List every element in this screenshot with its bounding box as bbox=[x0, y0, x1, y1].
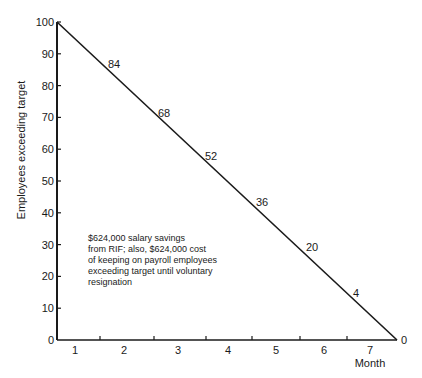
svg-text:70: 70 bbox=[42, 111, 54, 123]
svg-text:4: 4 bbox=[353, 287, 359, 299]
svg-text:5: 5 bbox=[273, 344, 279, 356]
svg-text:84: 84 bbox=[108, 58, 120, 70]
svg-text:50: 50 bbox=[42, 175, 54, 187]
svg-text:20: 20 bbox=[42, 270, 54, 282]
x-axis-title: Month bbox=[355, 357, 386, 369]
svg-text:90: 90 bbox=[42, 48, 54, 60]
data-labels: 84 68 52 36 20 4 0 bbox=[108, 58, 407, 346]
svg-text:10: 10 bbox=[42, 302, 54, 314]
svg-text:20: 20 bbox=[306, 241, 318, 253]
svg-text:60: 60 bbox=[42, 143, 54, 155]
svg-text:80: 80 bbox=[42, 80, 54, 92]
svg-text:68: 68 bbox=[158, 107, 170, 119]
y-axis-title: Employees exceeding target bbox=[15, 81, 27, 220]
svg-text:2: 2 bbox=[121, 344, 127, 356]
svg-text:52: 52 bbox=[205, 150, 217, 162]
svg-text:4: 4 bbox=[225, 344, 231, 356]
svg-text:36: 36 bbox=[256, 196, 268, 208]
svg-text:100: 100 bbox=[36, 16, 54, 28]
svg-text:30: 30 bbox=[42, 239, 54, 251]
svg-text:1: 1 bbox=[72, 344, 78, 356]
x-tick-labels: 1 2 3 4 5 6 7 bbox=[72, 344, 373, 356]
y-tick-labels: 100 90 80 70 60 50 40 30 20 10 0 bbox=[36, 16, 54, 346]
chart-annotation: $624,000 salary savings from RIF; also, … bbox=[88, 233, 288, 288]
svg-text:0: 0 bbox=[401, 334, 407, 346]
svg-text:40: 40 bbox=[42, 207, 54, 219]
svg-text:6: 6 bbox=[321, 344, 327, 356]
chart-canvas: 100 90 80 70 60 50 40 30 20 10 0 1 2 3 4… bbox=[0, 0, 422, 378]
svg-text:7: 7 bbox=[367, 344, 373, 356]
svg-text:0: 0 bbox=[48, 334, 54, 346]
svg-text:3: 3 bbox=[175, 344, 181, 356]
